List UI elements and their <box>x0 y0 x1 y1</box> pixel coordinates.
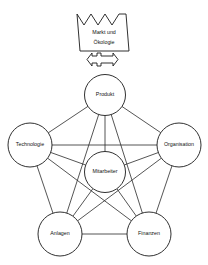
crown-label-line-2: Ökologie <box>94 39 115 45</box>
crown-to-produkt-connector <box>87 53 118 66</box>
edge-technologie-anlagen <box>37 166 53 213</box>
edge-organisation-finanzen <box>156 166 172 213</box>
node-label-anlagen: Anlagen <box>50 230 69 236</box>
crown-label-line-1: Markt und <box>92 29 116 35</box>
crown-shape-group: Markt und Ökologie <box>77 14 129 51</box>
node-label-finanzen: Finanzen <box>138 230 160 236</box>
pentagon-network-diagram: Markt und Ökologie ProduktTechnologieOrg… <box>0 0 208 265</box>
edge-produkt-technologie <box>48 106 88 132</box>
nodes-layer: ProduktTechnologieOrganisationMitarbeite… <box>8 75 201 257</box>
node-technologie[interactable]: Technologie <box>8 123 52 167</box>
node-produkt[interactable]: Produkt <box>85 75 126 116</box>
edge-produkt-organisation <box>122 106 161 132</box>
node-label-technologie: Technologie <box>16 141 44 147</box>
edge-organisation-mitarbeiter <box>124 153 158 165</box>
node-finanzen[interactable]: Finanzen <box>127 212 171 256</box>
double-headed-arrow-icon <box>87 53 118 66</box>
diagram-canvas: Markt und Ökologie ProduktTechnologieOrg… <box>0 0 208 265</box>
node-label-organisation: Organisation <box>164 141 194 147</box>
node-label-mitarbeiter: Mitarbeiter <box>92 168 117 174</box>
node-label-produkt: Produkt <box>96 91 115 97</box>
edge-technologie-mitarbeiter <box>51 152 86 165</box>
node-anlagen[interactable]: Anlagen <box>38 212 82 256</box>
node-mitarbeiter[interactable]: Mitarbeiter <box>85 152 126 193</box>
node-organisation[interactable]: Organisation <box>157 123 201 167</box>
